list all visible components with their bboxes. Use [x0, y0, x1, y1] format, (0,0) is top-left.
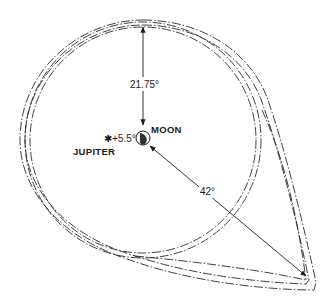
outer-teardrop-inner-line: [25, 25, 309, 284]
tangent-arc-upper: [262, 110, 306, 280]
moon-icon: [136, 131, 150, 145]
jupiter-offset-label: +5.5°: [112, 133, 136, 144]
moon-label: MOON: [151, 124, 182, 135]
halo-diagram: 21.75° 42° MOON ✱ +5.5° JUPITER: [0, 0, 335, 304]
halo-radius-label: 21.75°: [130, 79, 159, 90]
tangent-arc-lower: [135, 256, 306, 280]
jupiter-label: JUPITER: [73, 146, 115, 157]
outer-distance-label: 42°: [200, 186, 215, 197]
outer-teardrop-outer-line: [20, 20, 316, 290]
